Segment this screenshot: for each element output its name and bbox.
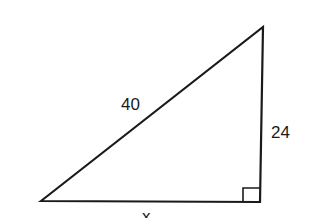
vertical-leg-label: 24: [271, 123, 290, 142]
right-angle-marker: [243, 188, 260, 202]
horizontal-leg-label: x: [142, 207, 151, 218]
triangle-diagram: 40 24 x: [0, 0, 309, 218]
right-triangle: [41, 27, 263, 202]
hypotenuse-label: 40: [121, 95, 140, 114]
